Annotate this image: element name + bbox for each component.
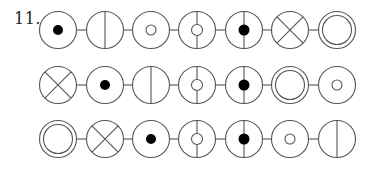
symbol-t-ring-icon [179, 67, 216, 104]
symbol-t-dot-icon [226, 67, 263, 104]
symbol-row-3 [40, 121, 356, 158]
symbol-vline-icon [133, 67, 170, 104]
symbol-dot-icon [40, 12, 77, 49]
symbol-ring-icon [133, 12, 170, 49]
symbol-row-2 [40, 67, 356, 104]
symbol-double-icon [272, 67, 309, 104]
symbol-cross-icon [272, 12, 309, 49]
symbol-cross-icon [40, 67, 77, 104]
symbol-t-ring-icon [179, 121, 216, 158]
symbol-t-dot-icon [226, 12, 263, 49]
symbol-dot-icon [87, 67, 124, 104]
symbol-double-icon [319, 12, 356, 49]
symbol-t-ring-icon [179, 12, 216, 49]
symbol-ring-icon [319, 67, 356, 104]
symbol-vline-icon [319, 121, 356, 158]
symbol-vline-icon [87, 12, 124, 49]
symbol-double-icon [40, 121, 77, 158]
symbol-sequence-diagram [0, 0, 377, 170]
symbol-t-dot-icon [226, 121, 263, 158]
symbol-cross-icon [87, 121, 124, 158]
symbol-dot-icon [133, 121, 170, 158]
symbol-ring-icon [272, 121, 309, 158]
symbol-row-1 [40, 12, 356, 49]
